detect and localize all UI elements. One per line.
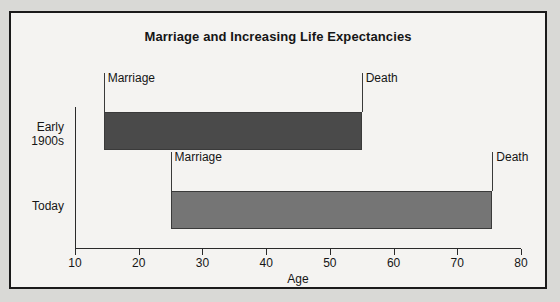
y-axis-line bbox=[75, 107, 76, 249]
x-tick-60 bbox=[394, 249, 395, 255]
leader-line-marriage-row1 bbox=[171, 152, 172, 191]
x-tick-label-60: 60 bbox=[374, 256, 414, 270]
annotation-marriage-row1: Marriage bbox=[175, 150, 222, 164]
x-tick-label-20: 20 bbox=[119, 256, 159, 270]
x-tick-10 bbox=[75, 249, 76, 255]
annotation-death-row0: Death bbox=[366, 71, 398, 85]
x-tick-50 bbox=[330, 249, 331, 255]
x-tick-20 bbox=[139, 249, 140, 255]
x-axis-label: Age bbox=[75, 272, 521, 286]
x-tick-80 bbox=[521, 249, 522, 255]
x-tick-30 bbox=[202, 249, 203, 255]
annotation-marriage-row0: Marriage bbox=[108, 71, 155, 85]
x-tick-label-70: 70 bbox=[437, 256, 477, 270]
plot-area: 1020304050607080 Age Early 1900s Today M… bbox=[11, 13, 545, 287]
x-axis-line bbox=[75, 248, 521, 249]
x-tick-label-80: 80 bbox=[501, 256, 541, 270]
x-tick-label-10: 10 bbox=[55, 256, 95, 270]
leader-line-death-row1 bbox=[492, 152, 493, 191]
chart-figure: Marriage and Increasing Life Expectancie… bbox=[9, 11, 547, 289]
leader-line-death-row0 bbox=[362, 73, 363, 112]
x-tick-label-40: 40 bbox=[246, 256, 286, 270]
bar-early-1900s bbox=[104, 112, 362, 150]
x-tick-40 bbox=[266, 249, 267, 255]
x-tick-70 bbox=[457, 249, 458, 255]
category-label-early-1900s: Early 1900s bbox=[31, 120, 64, 148]
x-tick-label-50: 50 bbox=[310, 256, 350, 270]
bar-today bbox=[171, 191, 493, 229]
leader-line-marriage-row0 bbox=[104, 73, 105, 112]
x-tick-label-30: 30 bbox=[182, 256, 222, 270]
category-label-today: Today bbox=[32, 199, 64, 213]
annotation-death-row1: Death bbox=[496, 150, 528, 164]
